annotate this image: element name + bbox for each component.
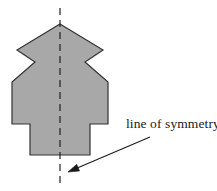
line-of-symmetry-label: line of symmetry: [126, 116, 217, 131]
figure-canvas: line of symmetry: [0, 0, 217, 191]
symmetry-figure: line of symmetry: [0, 0, 217, 191]
